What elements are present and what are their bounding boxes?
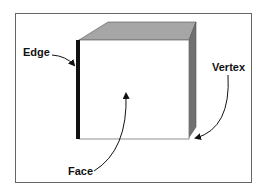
cube-top-face [79, 22, 196, 40]
cube-diagram [0, 0, 264, 194]
vertex-label: Vertex [212, 61, 245, 73]
cube-front-face [79, 40, 189, 139]
edge-arrow-icon [52, 55, 74, 65]
face-label: Face [68, 165, 93, 177]
edge-label: Edge [23, 46, 50, 58]
cube-highlighted-edge [76, 40, 80, 139]
vertex-arrow-icon [196, 75, 228, 138]
